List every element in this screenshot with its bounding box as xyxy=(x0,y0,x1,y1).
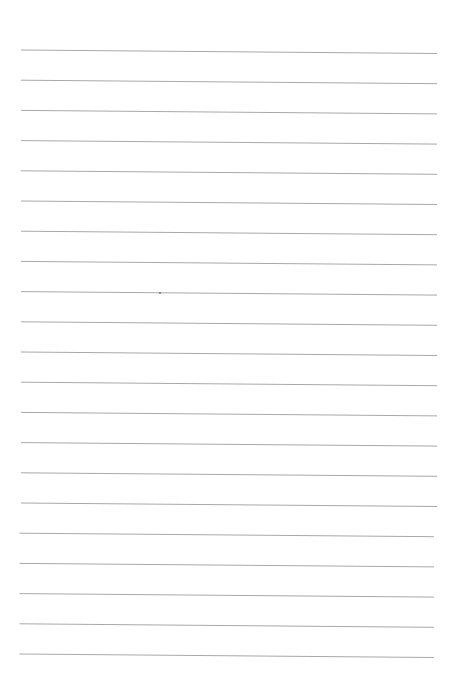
ruled-line xyxy=(21,412,437,416)
ruled-line xyxy=(21,110,437,114)
ruled-line xyxy=(21,261,437,265)
ruled-line xyxy=(21,382,437,386)
ruled-line xyxy=(21,201,437,205)
ruled-line xyxy=(21,352,437,356)
ruled-line xyxy=(21,322,437,326)
ruled-line xyxy=(21,473,437,477)
ruled-line xyxy=(21,141,437,145)
ruled-line xyxy=(21,231,437,235)
ruled-line xyxy=(20,533,435,537)
ruled-line xyxy=(21,50,437,54)
ruled-line xyxy=(20,563,435,567)
ruled-line xyxy=(21,443,437,447)
ruled-line xyxy=(20,594,435,598)
ruled-line xyxy=(21,292,437,296)
stray-ink-mark xyxy=(159,292,161,294)
lined-paper-page xyxy=(0,0,456,700)
ruled-line xyxy=(20,654,435,658)
ruled-line xyxy=(21,503,437,507)
ruled-lines xyxy=(0,0,456,700)
ruled-line xyxy=(21,80,437,84)
ruled-line xyxy=(21,171,437,175)
ruled-line xyxy=(20,624,435,628)
